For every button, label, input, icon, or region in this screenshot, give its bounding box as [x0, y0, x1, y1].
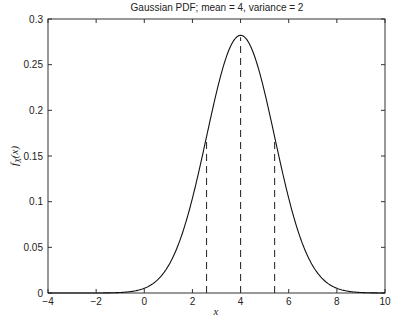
chart-title: Gaussian PDF; mean = 4, variance = 2: [131, 2, 304, 13]
y-tick-label: 0: [37, 288, 43, 299]
y-tick-label: 0.3: [29, 14, 43, 25]
axes-box: [48, 19, 385, 293]
x-tick-label: 8: [334, 296, 340, 307]
gaussian-pdf-chart: Gaussian PDF; mean = 4, variance = 2 −4−…: [0, 0, 399, 325]
y-tick-label: 0.15: [24, 151, 44, 162]
y-tick-label: 0.2: [29, 105, 43, 116]
x-tick-label: 10: [379, 296, 391, 307]
y-tick-label: 0.1: [29, 196, 43, 207]
x-tick-label: 6: [286, 296, 292, 307]
y-axis-label: fX(x): [8, 146, 23, 166]
y-tick-label: 0.05: [24, 242, 44, 253]
svg-text:fX(x): fX(x): [8, 146, 23, 166]
x-tick-label: 0: [142, 296, 148, 307]
x-tick-label: −2: [90, 296, 102, 307]
plot-area: −4−2024681000.050.10.150.20.250.3: [24, 14, 391, 308]
x-tick-label: 4: [238, 296, 244, 307]
x-axis-label: x: [213, 305, 219, 317]
pdf-curve: [48, 35, 385, 293]
x-tick-label: 2: [190, 296, 196, 307]
y-tick-label: 0.25: [24, 59, 44, 70]
x-tick-label: −4: [42, 296, 54, 307]
